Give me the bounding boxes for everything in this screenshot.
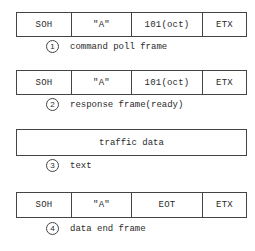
- circled-number-1-icon: 1: [46, 40, 59, 53]
- field-address: "A": [72, 71, 132, 94]
- field-etx: ETX: [203, 71, 246, 94]
- text-frame: traffic data: [16, 129, 247, 156]
- field-traffic-data: traffic data: [99, 138, 164, 148]
- caption-text: response frame(ready): [70, 100, 183, 110]
- field-code: 101(oct): [132, 13, 203, 36]
- response-frame: SOH "A" 101(oct) ETX: [16, 70, 247, 95]
- command-poll-frame: SOH "A" 101(oct) ETX: [16, 12, 247, 37]
- field-code: 101(oct): [132, 71, 203, 94]
- field-soh: SOH: [17, 71, 72, 94]
- field-etx: ETX: [203, 13, 246, 36]
- field-soh: SOH: [17, 13, 72, 36]
- circled-number-3-icon: 3: [46, 159, 59, 172]
- caption-text: command poll frame: [70, 42, 167, 52]
- field-soh: SOH: [17, 193, 72, 217]
- data-end-frame: SOH "A" EOT ETX: [16, 192, 247, 218]
- caption-2: 2 response frame(ready): [46, 98, 183, 111]
- caption-4: 4 data end frame: [46, 222, 146, 235]
- caption-text: data end frame: [70, 224, 146, 234]
- circled-number-4-icon: 4: [46, 222, 59, 235]
- field-address: "A": [72, 193, 132, 217]
- field-eot: EOT: [132, 193, 203, 217]
- field-address: "A": [72, 13, 132, 36]
- field-etx: ETX: [203, 193, 246, 217]
- caption-text: text: [70, 161, 92, 171]
- caption-1: 1 command poll frame: [46, 40, 167, 53]
- circled-number-2-icon: 2: [46, 98, 59, 111]
- caption-3: 3 text: [46, 159, 92, 172]
